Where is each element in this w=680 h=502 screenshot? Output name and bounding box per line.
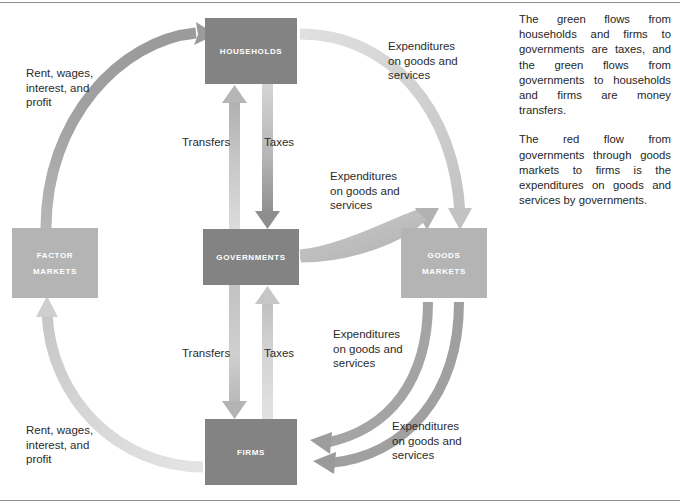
flow-label-expenditures-top: Expenditures on goods and services	[388, 39, 490, 83]
node-factor-markets-label-line1: Factor	[33, 247, 77, 263]
caption-paragraph-red-flow: The red flow from governments through go…	[519, 132, 671, 208]
flow-label-expenditures-mid-bottom: Expenditures on goods and services	[333, 327, 435, 371]
flow-arc-factor-to-households	[46, 22, 216, 228]
node-governments-label: Governments	[216, 249, 285, 265]
node-factor-markets-label-line2: Markets	[33, 263, 77, 279]
node-firms[interactable]: Firms	[205, 419, 297, 485]
flow-taxes-households-to-governments	[255, 84, 280, 229]
node-households[interactable]: Households	[205, 18, 297, 84]
node-governments[interactable]: Governments	[203, 229, 299, 285]
flow-label-transfers-bottom: Transfers	[182, 346, 230, 361]
flow-label-expenditures-bottom: Expenditures on goods and services	[392, 419, 494, 463]
flow-label-taxes-top: Taxes	[264, 135, 294, 150]
figure-canvas: Households Governments Firms Factor Mark…	[0, 0, 680, 502]
caption-panel: The green flows from households and firm…	[519, 12, 671, 208]
node-households-label: Households	[220, 43, 282, 59]
flow-label-rent-wages-interest-profit-top: Rent, wages, interest, and profit	[26, 66, 118, 110]
node-goods-markets[interactable]: Goods Markets	[401, 228, 487, 298]
flow-label-expenditures-mid-top: Expenditures on goods and services	[330, 169, 432, 213]
caption-paragraph-green-flows: The green flows from households and firm…	[519, 12, 671, 118]
node-factor-markets[interactable]: Factor Markets	[12, 228, 98, 298]
node-goods-markets-label-line1: Goods	[422, 247, 466, 263]
node-firms-label: Firms	[237, 444, 265, 460]
flow-label-rent-wages-interest-profit-bottom: Rent, wages, interest, and profit	[26, 423, 118, 467]
flow-label-transfers-top: Transfers	[182, 135, 230, 150]
flow-label-taxes-bottom: Taxes	[264, 346, 294, 361]
node-goods-markets-label-line2: Markets	[422, 263, 466, 279]
flow-transfers-governments-to-households	[222, 85, 247, 229]
